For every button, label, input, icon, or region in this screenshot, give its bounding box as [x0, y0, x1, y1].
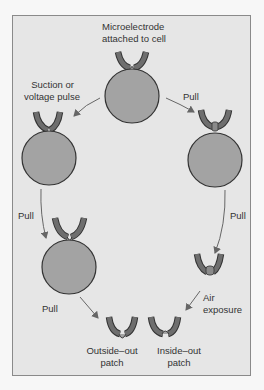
cell-icon	[22, 131, 76, 185]
label-line: patch	[149, 357, 209, 369]
outside-out-patch-node	[109, 317, 135, 338]
cell-icon	[188, 133, 242, 187]
label-pull-left-mid: Pull	[18, 210, 34, 222]
arrow-pull-left	[41, 189, 46, 238]
closed-vesicle-node	[197, 254, 221, 275]
vesicle-on-tip-node	[188, 110, 242, 187]
label-microelectrode: Microelectrode attached to cell	[102, 21, 162, 45]
label-line: Outside–out	[82, 345, 142, 357]
cell-attached-node	[105, 52, 159, 123]
label-line: exposure	[203, 304, 242, 316]
label-outside-out: Outside–out patch	[82, 345, 142, 369]
arrow-to-inside-out	[186, 291, 200, 310]
cell-icon	[105, 69, 159, 123]
arrow-to-outside-out	[80, 297, 98, 318]
label-air-exposure: Air exposure	[203, 292, 242, 316]
label-line: attached to cell	[102, 33, 162, 45]
label-suction: Suction or voltage pulse	[24, 79, 74, 103]
whole-cell-node	[22, 112, 76, 185]
label-line: Inside–out	[149, 345, 209, 357]
patch-clamp-diagram	[0, 0, 264, 390]
label-line: Microelectrode	[102, 21, 162, 33]
label-inside-out: Inside–out patch	[149, 345, 209, 369]
inside-out-patch-node	[151, 317, 178, 334]
label-pull-left-bottom: Pull	[42, 303, 58, 315]
label-line: Suction or	[24, 79, 74, 91]
label-pull-right-mid: Pull	[230, 210, 246, 222]
arrow-pull-right-down	[215, 190, 225, 253]
whole-cell-pulled-node	[42, 218, 96, 294]
label-line: Air	[203, 292, 242, 304]
label-line: patch	[82, 357, 142, 369]
label-line: voltage pulse	[24, 91, 74, 103]
cell-icon	[42, 240, 96, 294]
label-pull-right-top: Pull	[183, 91, 199, 103]
